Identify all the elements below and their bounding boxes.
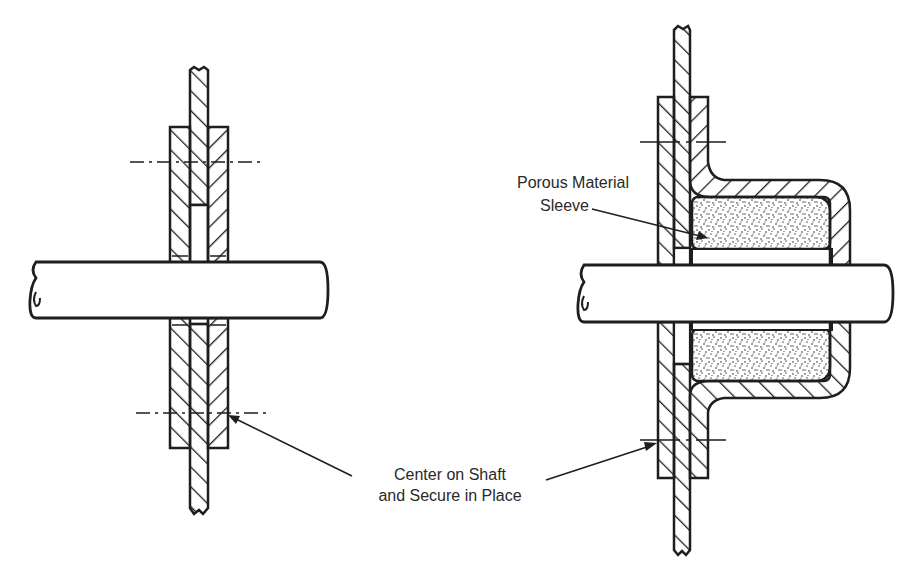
porous-label-line2: Sleeve	[494, 196, 589, 215]
left-shaft	[30, 262, 328, 318]
right-collar-upper	[658, 97, 674, 265]
porous-sleeve-lower	[692, 329, 830, 381]
leader-arrows	[228, 209, 708, 480]
right-shaft	[578, 265, 893, 322]
right-collar-lower	[658, 322, 674, 478]
porous-label-line1: Porous Material	[494, 173, 629, 192]
center-label-line1: Center on Shaft	[355, 465, 545, 484]
porous-sleeve-upper	[692, 197, 830, 249]
center-label-line2: and Secure in Place	[355, 486, 545, 505]
left-assembly	[30, 67, 328, 514]
right-assembly	[578, 26, 893, 555]
